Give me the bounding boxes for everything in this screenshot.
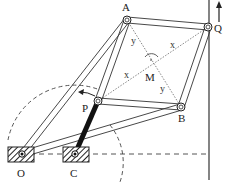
joint-O xyxy=(19,151,25,157)
label-P: P xyxy=(82,102,88,114)
joint-C xyxy=(72,151,78,157)
link-AQ xyxy=(127,17,208,30)
label-M: M xyxy=(145,71,155,83)
label-y-lower: y xyxy=(160,83,165,94)
label-A: A xyxy=(122,1,130,13)
link-OB xyxy=(22,104,182,157)
joint-B xyxy=(177,103,185,111)
joint-Q xyxy=(204,23,212,31)
joint-P xyxy=(94,97,102,105)
link-QB xyxy=(178,27,211,108)
linkage-diagram: A Q M P B O C y x x y xyxy=(0,0,225,185)
label-C: C xyxy=(70,167,77,179)
arrow-up-icon xyxy=(216,1,222,8)
rotation-arrowhead-icon xyxy=(78,89,84,95)
joint-A xyxy=(123,16,131,24)
label-B: B xyxy=(178,112,185,124)
label-x-upper: x xyxy=(170,39,175,50)
label-x-lower: x xyxy=(124,69,129,80)
label-y-upper: y xyxy=(131,35,136,46)
label-O: O xyxy=(17,167,25,179)
link-AP xyxy=(95,20,130,102)
label-Q: Q xyxy=(214,22,222,34)
right-angle-mark xyxy=(145,54,158,57)
link-OA xyxy=(20,18,129,155)
link-PB xyxy=(98,98,181,110)
